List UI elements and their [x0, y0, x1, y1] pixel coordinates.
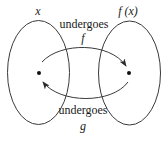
domain-point [37, 71, 41, 75]
arrow-g-function-label: g [80, 119, 86, 133]
codomain-point [127, 71, 131, 75]
arrow-f-function-label: f [81, 31, 86, 45]
arrow-f-caption: undergoes [59, 17, 108, 31]
arrow-f [42, 47, 126, 66]
codomain-label: f (x) [118, 4, 138, 18]
domain-label: x [34, 4, 41, 18]
arrow-g-caption: undergoes [58, 103, 107, 117]
arrow-g [43, 82, 128, 99]
mapping-diagram: x f (x) undergoes f undergoes g [0, 0, 162, 141]
